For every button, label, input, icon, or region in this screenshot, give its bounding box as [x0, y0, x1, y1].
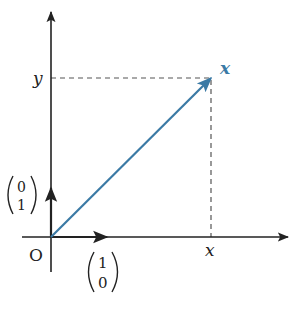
- vector-x: [51, 78, 211, 237]
- unit-x-bottom: 0: [98, 274, 108, 292]
- right-paren: [112, 252, 118, 292]
- origin-label: O: [29, 245, 43, 265]
- unit-x-top: 1: [98, 254, 108, 272]
- y-tick-label: y: [32, 68, 43, 88]
- unit-x-column-vector: 1 0: [89, 252, 118, 292]
- left-paren: [89, 252, 95, 292]
- left-paren: [8, 176, 13, 214]
- vector-label: x: [219, 58, 231, 78]
- vector-diagram: y x x O 0 1 1 0: [0, 0, 305, 310]
- unit-y-top: 0: [17, 179, 26, 195]
- x-tick-label: x: [205, 240, 215, 260]
- right-paren: [31, 176, 36, 214]
- unit-y-column-vector: 0 1: [8, 176, 36, 214]
- unit-y-bottom: 1: [17, 197, 26, 213]
